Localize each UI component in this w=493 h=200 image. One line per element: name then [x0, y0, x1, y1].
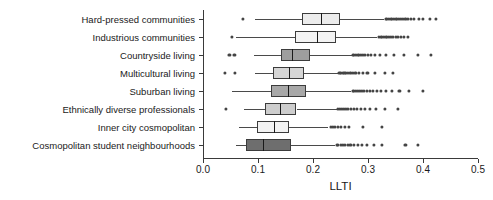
outlier-point [375, 89, 378, 92]
whisker-upper [297, 109, 337, 110]
median-line [263, 139, 264, 151]
x-axis-tick-label: 0.5 [471, 164, 485, 175]
outlier-point [242, 17, 245, 20]
median-line [321, 13, 322, 25]
outlier-point [404, 143, 407, 146]
outlier-point [359, 107, 362, 110]
x-axis-tick-label: 0.0 [196, 164, 210, 175]
whisker-lower [255, 73, 273, 74]
x-axis-tick [258, 159, 259, 163]
median-line [292, 49, 293, 61]
outlier-point [348, 125, 351, 128]
outlier-point [360, 143, 363, 146]
outlier-point [403, 53, 406, 56]
median-line [280, 103, 281, 115]
whisker-upper [289, 127, 328, 128]
y-axis-category-label: Suburban living [0, 86, 195, 97]
median-line [288, 85, 289, 97]
y-axis-tick [199, 55, 203, 56]
outlier-point [435, 17, 438, 20]
x-axis-tick [478, 159, 479, 163]
outlier-point [398, 89, 401, 92]
outlier-point [391, 89, 394, 92]
outlier-point [391, 71, 394, 74]
y-axis-tick [199, 19, 203, 20]
whisker-upper [310, 55, 351, 56]
outlier-point [343, 125, 346, 128]
y-axis-line [203, 10, 204, 158]
outlier-point [381, 125, 384, 128]
x-axis-tick [313, 159, 314, 163]
y-axis-category-label: Inner city cosmopolitan [0, 122, 195, 133]
y-axis-category-label: Industrious communities [0, 32, 195, 43]
x-axis-tick [203, 159, 204, 163]
outlier-point [375, 107, 378, 110]
outlier-point [421, 89, 424, 92]
whisker-lower [236, 145, 246, 146]
outlier-point [233, 71, 236, 74]
x-axis-tick-label: 0.4 [416, 164, 430, 175]
y-axis-tick [199, 37, 203, 38]
y-axis-tick [199, 91, 203, 92]
outlier-point [361, 71, 364, 74]
outlier-point [392, 53, 395, 56]
whisker-upper [306, 91, 351, 92]
y-axis-tick [199, 73, 203, 74]
outlier-point [421, 17, 424, 20]
outlier-point [380, 143, 383, 146]
outlier-point [233, 53, 236, 56]
outlier-point [223, 71, 226, 74]
outlier-point [380, 89, 383, 92]
outlier-point [372, 143, 375, 146]
outlier-point [406, 35, 409, 38]
outlier-point [231, 35, 234, 38]
outlier-point [379, 53, 382, 56]
box [281, 49, 311, 61]
x-axis-tick [368, 159, 369, 163]
outlier-point [373, 71, 376, 74]
outlier-point [356, 143, 359, 146]
outlier-point [407, 89, 410, 92]
y-axis-category-label: Hard-pressed communities [0, 14, 195, 25]
x-axis-tick-label: 0.1 [251, 164, 265, 175]
y-axis-tick [199, 127, 203, 128]
y-axis-category-label: Countryside living [0, 50, 195, 61]
outlier-point [383, 71, 386, 74]
y-axis-category-label: Cosmopolitan student neighbourhoods [0, 140, 195, 151]
outlier-point [370, 53, 373, 56]
outlier-point [366, 71, 369, 74]
outlier-point [357, 71, 360, 74]
outlier-point [385, 89, 388, 92]
outlier-point [364, 107, 367, 110]
whisker-lower [254, 55, 281, 56]
boxplot-chart: Hard-pressed communitiesIndustrious comm… [0, 0, 493, 200]
box [295, 31, 335, 43]
median-line [289, 67, 290, 79]
outlier-point [355, 107, 358, 110]
x-axis-tick-label: 0.2 [306, 164, 320, 175]
outlier-point [371, 89, 374, 92]
outlier-point [365, 143, 368, 146]
y-axis-tick [199, 145, 203, 146]
outlier-point [413, 17, 416, 20]
outlier-point [416, 53, 419, 56]
whisker-upper [336, 37, 378, 38]
outlier-point [228, 53, 231, 56]
whisker-upper [291, 145, 335, 146]
y-axis-category-label: Multicultural living [0, 68, 195, 79]
outlier-point [339, 125, 342, 128]
whisker-lower [236, 37, 295, 38]
x-axis-tick-label: 0.3 [361, 164, 375, 175]
median-line [317, 31, 318, 43]
outlier-point [396, 107, 399, 110]
whisker-upper [304, 73, 338, 74]
whisker-lower [232, 91, 272, 92]
median-line [274, 121, 275, 133]
y-axis-tick [199, 109, 203, 110]
x-axis-tick [423, 159, 424, 163]
x-axis-title: LLTI [329, 180, 351, 192]
y-axis-category-label: Ethnically diverse professionals [0, 104, 195, 115]
box [246, 139, 291, 151]
whisker-upper [340, 19, 385, 20]
outlier-point [361, 125, 364, 128]
